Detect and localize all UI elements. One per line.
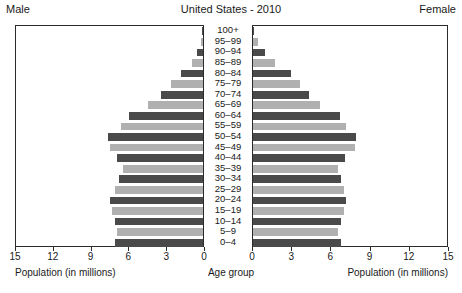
female-bar: [253, 91, 309, 99]
female-bar-row: [253, 91, 447, 99]
male-bar-row: [16, 123, 203, 131]
male-bar: [161, 91, 203, 99]
male-bar: [112, 207, 203, 215]
female-bar-row: [253, 144, 447, 152]
male-bar-row: [16, 80, 203, 88]
male-bar: [117, 154, 203, 162]
female-bar-row: [253, 154, 447, 162]
male-bar-row: [16, 218, 203, 226]
age-group-label: 50–54: [204, 131, 252, 141]
axis-tick-label: 9: [367, 251, 373, 263]
male-bar: [171, 80, 203, 88]
male-x-axis: 15129630: [15, 247, 204, 265]
age-group-label: 10–14: [204, 216, 252, 226]
male-bar-row: [16, 133, 203, 141]
female-bar-row: [253, 38, 447, 46]
male-bar-row: [16, 101, 203, 109]
male-bar-row: [16, 175, 203, 183]
female-bar: [253, 123, 346, 131]
male-bar-row: [16, 112, 203, 120]
female-bar: [253, 228, 338, 236]
male-bar-row: [16, 27, 203, 35]
age-group-label: 30–34: [204, 173, 252, 183]
male-bar-row: [16, 38, 203, 46]
age-group-label: 80–84: [204, 68, 252, 78]
male-bar: [121, 123, 203, 131]
female-bar-row: [253, 133, 447, 141]
axis-tick-label: 6: [126, 251, 132, 263]
female-bar: [253, 154, 345, 162]
age-group-label: 60–64: [204, 110, 252, 120]
age-group-label: 100+: [204, 25, 252, 35]
male-bar-row: [16, 154, 203, 162]
female-bar-row: [253, 228, 447, 236]
female-bar: [253, 197, 346, 205]
age-group-label: 40–44: [204, 152, 252, 162]
age-group-label: 0–4: [204, 237, 252, 247]
age-group-label: 20–24: [204, 194, 252, 204]
female-bar-row: [253, 165, 447, 173]
female-bar: [253, 70, 291, 78]
male-bar: [129, 112, 203, 120]
age-group-label: 85–89: [204, 57, 252, 67]
chart-title: United States - 2010: [0, 2, 462, 17]
female-bar-row: [253, 175, 447, 183]
male-bar: [192, 59, 203, 67]
female-bar-row: [253, 80, 447, 88]
female-bar: [253, 175, 341, 183]
male-bar: [110, 144, 204, 152]
male-bar: [181, 70, 203, 78]
female-bar: [253, 112, 340, 120]
male-bar: [148, 101, 203, 109]
male-bar-row: [16, 186, 203, 194]
female-bar-row: [253, 27, 447, 35]
age-group-label: 5–9: [204, 226, 252, 236]
male-bar: [110, 197, 204, 205]
axis-tick-label: 15: [9, 251, 20, 263]
female-bar: [253, 59, 275, 67]
female-bar: [253, 218, 341, 226]
age-group-label: 15–19: [204, 205, 252, 215]
female-bar: [253, 186, 344, 194]
age-group-label: 55–59: [204, 120, 252, 130]
axis-tick-label: 9: [88, 251, 94, 263]
male-bar-row: [16, 59, 203, 67]
female-x-axis: 03691215: [252, 247, 448, 265]
female-bar-row: [253, 239, 447, 247]
female-bar: [253, 239, 341, 247]
female-bar: [253, 80, 300, 88]
male-bar-row: [16, 239, 203, 247]
male-bar: [202, 27, 203, 35]
female-side-label: Female: [419, 2, 456, 17]
female-bar: [253, 49, 265, 57]
female-bar: [253, 207, 344, 215]
axis-tick-label: 0: [201, 251, 207, 263]
female-bar-row: [253, 70, 447, 78]
male-bar-row: [16, 91, 203, 99]
female-bar: [253, 133, 356, 141]
male-bar: [123, 165, 203, 173]
age-group-label: 95–99: [204, 36, 252, 46]
axis-tick-label: 3: [163, 251, 169, 263]
male-bar: [115, 186, 204, 194]
male-bar-row: [16, 207, 203, 215]
axis-tick-label: 12: [403, 251, 414, 263]
male-bar: [201, 38, 203, 46]
male-plot-area: [15, 25, 204, 247]
axis-tick-label: 3: [288, 251, 294, 263]
age-group-label: 90–94: [204, 46, 252, 56]
female-bar: [253, 101, 320, 109]
female-bar: [253, 38, 258, 46]
axis-tick-label: 6: [328, 251, 334, 263]
axis-tick-label: 0: [249, 251, 255, 263]
female-axis-title: Population (in millions): [347, 266, 448, 279]
female-bar-row: [253, 218, 447, 226]
population-pyramid-chart: Male United States - 2010 Female 100+95–…: [0, 0, 462, 293]
female-bar-row: [253, 186, 447, 194]
male-bar: [108, 133, 203, 141]
age-group-label: 70–74: [204, 89, 252, 99]
male-bar-row: [16, 228, 203, 236]
female-bar: [253, 144, 355, 152]
female-bar-row: [253, 197, 447, 205]
female-bar-row: [253, 101, 447, 109]
